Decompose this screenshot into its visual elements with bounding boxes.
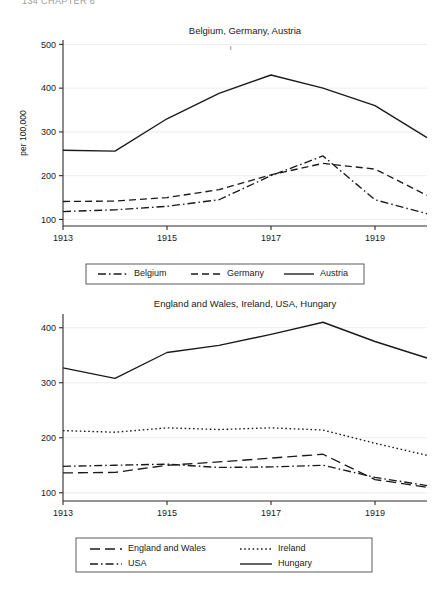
x-tick-label: 1919 — [365, 233, 385, 243]
y-tick-label: 100 — [41, 215, 56, 225]
legend-label-germany[interactable]: Germany — [227, 268, 265, 278]
x-tick-label: 1917 — [261, 233, 281, 243]
series-line-germany — [63, 163, 427, 201]
chart-figure-belgium-germany-austria: Belgium, Germany, Austria100200300400500… — [0, 14, 448, 289]
page-header: 134 CHAPTER 6 — [22, 0, 95, 6]
y-tick-label: 200 — [41, 171, 56, 181]
series-line-england-and-wales — [63, 454, 427, 487]
chart-title: Belgium, Germany, Austria — [189, 25, 302, 36]
y-tick-label: 400 — [41, 83, 56, 93]
legend-label-ireland[interactable]: Ireland — [278, 543, 306, 553]
chart-canvas-top: Belgium, Germany, Austria100200300400500… — [0, 14, 448, 289]
y-tick-label: 300 — [41, 127, 56, 137]
y-tick-label: 500 — [41, 40, 56, 50]
x-tick-label: 1913 — [53, 508, 73, 518]
x-tick-label: 1915 — [157, 233, 177, 243]
legend-label-usa[interactable]: USA — [128, 558, 147, 568]
series-line-usa — [63, 464, 427, 485]
x-tick-label: 1913 — [53, 233, 73, 243]
series-line-ireland — [63, 428, 427, 456]
chart-title: England and Wales, Ireland, USA, Hungary — [154, 298, 337, 309]
y-tick-label: 300 — [41, 378, 56, 388]
series-line-austria — [63, 75, 427, 151]
legend-box — [76, 538, 372, 572]
x-tick-label: 1919 — [365, 508, 385, 518]
chart-canvas-bottom: England and Wales, Ireland, USA, Hungary… — [0, 290, 448, 590]
series-line-hungary — [63, 322, 427, 378]
y-tick-label: 100 — [41, 488, 56, 498]
scan-artifact-speck — [230, 46, 231, 50]
x-tick-label: 1917 — [261, 508, 281, 518]
legend-label-england-and-wales[interactable]: England and Wales — [128, 543, 206, 553]
chart-figure-england-ireland-usa-hungary: England and Wales, Ireland, USA, Hungary… — [0, 290, 448, 590]
series-line-belgium — [63, 156, 427, 214]
y-tick-label: 400 — [41, 323, 56, 333]
y-axis-title: per 100,000 — [18, 110, 28, 156]
legend-label-belgium[interactable]: Belgium — [134, 268, 167, 278]
x-tick-label: 1915 — [157, 508, 177, 518]
legend-label-hungary[interactable]: Hungary — [278, 558, 313, 568]
y-tick-label: 200 — [41, 433, 56, 443]
legend-label-austria[interactable]: Austria — [320, 268, 348, 278]
